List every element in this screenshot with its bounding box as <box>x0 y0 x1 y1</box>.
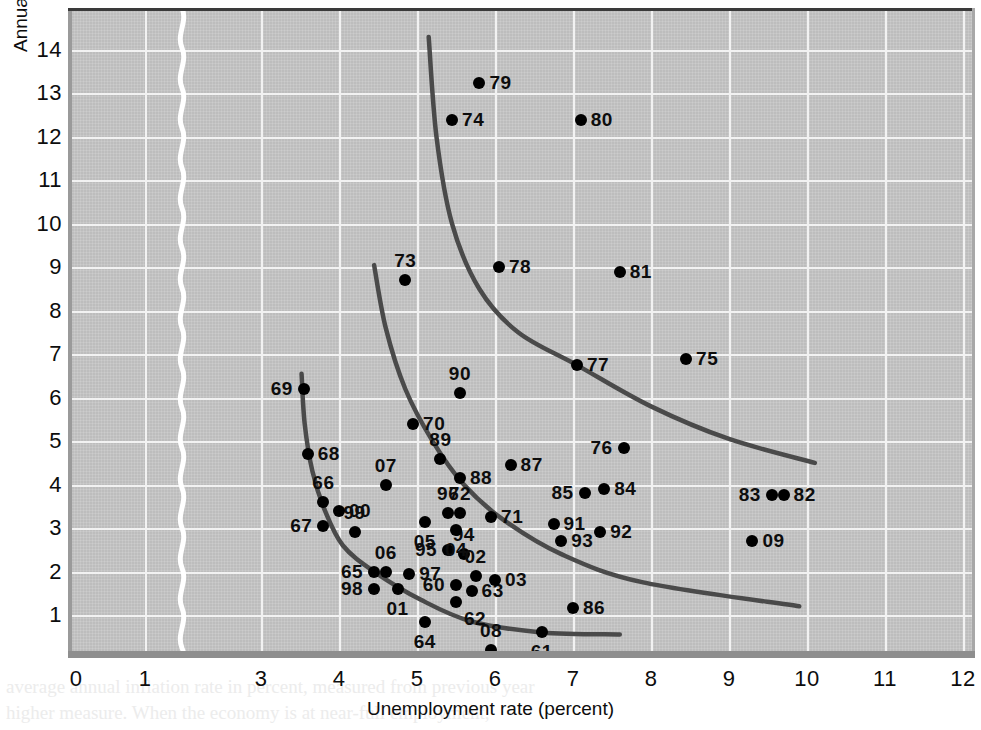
plot-border-left <box>68 8 72 658</box>
data-label-88: 88 <box>470 467 492 489</box>
data-point-77 <box>571 359 583 371</box>
data-label-02: 02 <box>464 546 486 568</box>
plot-border-top <box>68 8 975 11</box>
data-point-60 <box>450 579 462 591</box>
data-point-70 <box>407 418 419 430</box>
data-point-75 <box>680 353 692 365</box>
data-point-05 <box>419 516 431 528</box>
data-label-07: 07 <box>375 455 397 477</box>
data-label-05: 05 <box>414 531 436 553</box>
data-point-06 <box>380 566 392 578</box>
data-label-85: 85 <box>552 482 574 504</box>
data-point-00 <box>333 505 345 517</box>
plot-area: 6061626364656667686970717273747576777879… <box>68 8 975 658</box>
data-label-93: 93 <box>571 530 593 552</box>
data-point-87 <box>505 459 517 471</box>
data-label-69: 69 <box>271 378 293 400</box>
x-tick-11: 11 <box>863 666 907 692</box>
data-label-03: 03 <box>505 569 527 591</box>
x-tick-8: 8 <box>629 666 673 692</box>
x-tick-9: 9 <box>707 666 751 692</box>
data-label-96: 96 <box>437 483 459 505</box>
data-label-92: 92 <box>610 521 632 543</box>
data-label-97: 97 <box>419 563 441 585</box>
x-tick-7: 7 <box>551 666 595 692</box>
plot-border-bottom <box>68 651 975 658</box>
data-label-86: 86 <box>583 597 605 619</box>
data-point-72 <box>454 507 466 519</box>
data-label-82: 82 <box>794 484 816 506</box>
data-point-69 <box>298 383 310 395</box>
x-tick-12: 12 <box>941 666 981 692</box>
data-label-68: 68 <box>318 443 340 465</box>
data-label-76: 76 <box>591 437 613 459</box>
x-tick-0: 0 <box>54 666 98 692</box>
data-label-06: 06 <box>375 542 397 564</box>
data-label-83: 83 <box>739 484 761 506</box>
x-tick-3: 3 <box>239 666 283 692</box>
data-label-90: 90 <box>449 363 471 385</box>
x-tick-4: 4 <box>317 666 361 692</box>
data-point-79 <box>473 77 485 89</box>
data-point-98 <box>368 583 380 595</box>
data-point-01 <box>392 583 404 595</box>
data-point-85 <box>579 487 591 499</box>
data-point-76 <box>618 442 630 454</box>
data-label-89: 89 <box>429 429 451 451</box>
data-label-01: 01 <box>386 598 408 620</box>
data-point-99 <box>349 526 361 538</box>
data-label-80: 80 <box>591 109 613 131</box>
phillips-curve-figure: average annual inflation rate in percent… <box>0 0 981 730</box>
data-label-64: 64 <box>414 631 436 653</box>
data-point-65 <box>368 566 380 578</box>
x-axis-label: Unemployment rate (percent) <box>0 698 981 720</box>
data-label-08: 08 <box>480 620 502 642</box>
curve-phillips-curve-1970s <box>429 37 815 463</box>
data-point-68 <box>302 448 314 460</box>
data-point-64 <box>419 616 431 628</box>
data-label-00: 00 <box>349 500 371 522</box>
data-point-97 <box>403 568 415 580</box>
data-point-96 <box>442 507 454 519</box>
data-point-81 <box>614 266 626 278</box>
data-label-66: 66 <box>312 472 334 494</box>
data-label-81: 81 <box>630 261 652 283</box>
data-point-07 <box>380 479 392 491</box>
data-label-77: 77 <box>587 354 609 376</box>
y-axis-label-wrap: Annual rate of inflation (percent) <box>14 0 44 660</box>
data-label-84: 84 <box>614 478 636 500</box>
data-label-98: 98 <box>341 578 363 600</box>
data-point-63 <box>466 585 478 597</box>
data-point-89 <box>434 453 446 465</box>
data-point-74 <box>446 114 458 126</box>
data-point-80 <box>575 114 587 126</box>
data-label-79: 79 <box>489 72 511 94</box>
data-label-04: 04 <box>445 539 467 561</box>
x-tick-6: 6 <box>473 666 517 692</box>
x-tick-10: 10 <box>785 666 829 692</box>
data-point-02 <box>470 570 482 582</box>
data-point-91 <box>548 518 560 530</box>
data-label-75: 75 <box>696 348 718 370</box>
y-axis-label: Annual rate of inflation (percent) <box>10 0 32 52</box>
data-label-87: 87 <box>521 454 543 476</box>
data-label-78: 78 <box>509 256 531 278</box>
data-point-62 <box>450 596 462 608</box>
data-label-74: 74 <box>462 109 484 131</box>
data-label-09: 09 <box>762 530 784 552</box>
data-label-73: 73 <box>394 250 416 272</box>
x-tick-1: 1 <box>123 666 167 692</box>
x-tick-5: 5 <box>395 666 439 692</box>
plot-border-right <box>972 8 975 658</box>
data-label-67: 67 <box>290 515 312 537</box>
phillips-curves <box>68 8 975 658</box>
data-label-71: 71 <box>501 506 523 528</box>
data-point-82 <box>778 489 790 501</box>
x-axis-ticks: 013456789101112 <box>0 666 981 696</box>
